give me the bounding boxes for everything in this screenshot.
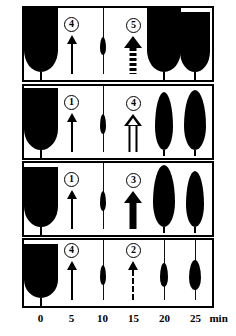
arrow-head-icon bbox=[128, 261, 138, 270]
peak-tail bbox=[40, 150, 42, 158]
arrow-head-icon bbox=[67, 261, 77, 270]
arrow-shaft bbox=[71, 199, 73, 229]
arrow-head-icon bbox=[124, 191, 142, 203]
figure: 45141342 0510152025min bbox=[0, 0, 236, 336]
event-arrow-thin-dashed bbox=[128, 261, 138, 300]
arrow-shaft bbox=[130, 48, 137, 74]
event-arrow-hollow bbox=[124, 114, 142, 152]
peak-spindle bbox=[189, 260, 201, 290]
event-arrow-thin-solid bbox=[67, 190, 77, 229]
x-tick-label-5: 5 bbox=[69, 312, 75, 324]
peak-blob bbox=[24, 88, 58, 150]
circled-number-badge: 1 bbox=[64, 172, 79, 187]
panel-row-2: 14 bbox=[22, 84, 214, 160]
x-tick-label-20: 20 bbox=[159, 312, 170, 324]
event-arrow-thin-solid bbox=[67, 261, 77, 300]
circled-number-badge: 4 bbox=[64, 243, 79, 258]
peak-tail bbox=[40, 298, 42, 306]
peak-tail bbox=[194, 150, 196, 156]
peak-tail bbox=[40, 227, 42, 235]
peak-spindle bbox=[100, 191, 106, 211]
peak-blob bbox=[24, 167, 58, 227]
circled-number-badge: 4 bbox=[64, 17, 79, 32]
circled-number-badge: 1 bbox=[64, 95, 79, 110]
arrow-shaft bbox=[130, 203, 137, 229]
x-tick-label-0: 0 bbox=[38, 312, 44, 324]
x-axis: 0510152025min bbox=[22, 308, 214, 334]
peak-blob bbox=[24, 244, 58, 298]
plot-area: 45 bbox=[24, 8, 212, 80]
panel-row-1: 45 bbox=[22, 6, 214, 82]
arrow-shaft bbox=[71, 270, 73, 300]
circled-number-badge: 5 bbox=[126, 18, 141, 33]
plot-area: 42 bbox=[24, 240, 212, 306]
peak-tail bbox=[163, 72, 165, 80]
peak-leaf bbox=[155, 92, 173, 150]
peak-spindle bbox=[160, 263, 168, 287]
event-arrow-thick-solid bbox=[124, 191, 142, 229]
plot-area: 13 bbox=[24, 163, 212, 235]
circled-number-badge: 3 bbox=[126, 173, 141, 188]
x-tick-label-15: 15 bbox=[128, 312, 139, 324]
arrow-head-icon bbox=[67, 190, 77, 199]
peak-tail bbox=[163, 150, 165, 156]
x-tick-label-10: 10 bbox=[97, 312, 108, 324]
event-arrow-thick-dotted bbox=[124, 36, 142, 74]
peak-blob bbox=[147, 8, 181, 72]
panel-row-3: 13 bbox=[22, 161, 214, 237]
event-arrow-thin-solid bbox=[67, 35, 77, 74]
peak-tail bbox=[40, 72, 42, 80]
event-arrow-thin-solid bbox=[67, 113, 77, 152]
arrow-head-icon bbox=[124, 114, 142, 126]
peak-blob bbox=[24, 8, 58, 72]
peak-tail bbox=[194, 227, 196, 233]
peak-spindle bbox=[100, 37, 106, 55]
panel-row-4: 42 bbox=[22, 238, 214, 308]
peak-tail bbox=[163, 227, 165, 233]
peak-leaf bbox=[184, 90, 206, 150]
arrow-shaft bbox=[71, 44, 73, 74]
x-tick-label-25: 25 bbox=[190, 312, 201, 324]
peak-leaf bbox=[153, 165, 175, 227]
peak-leaf bbox=[186, 171, 204, 227]
arrow-head-icon bbox=[124, 36, 142, 48]
plot-area: 14 bbox=[24, 86, 212, 158]
arrow-shaft bbox=[132, 270, 134, 300]
arrow-head-icon bbox=[67, 35, 77, 44]
peak-tail bbox=[194, 72, 196, 80]
circled-number-badge: 4 bbox=[126, 96, 141, 111]
circled-number-badge: 2 bbox=[126, 243, 141, 258]
arrow-shaft bbox=[129, 126, 138, 152]
arrow-shaft bbox=[71, 122, 73, 152]
peak-blob bbox=[180, 12, 210, 72]
x-axis-unit-label: min bbox=[209, 312, 227, 324]
arrow-head-icon bbox=[67, 113, 77, 122]
peak-spindle bbox=[100, 114, 106, 134]
peak-spindle bbox=[100, 265, 106, 285]
